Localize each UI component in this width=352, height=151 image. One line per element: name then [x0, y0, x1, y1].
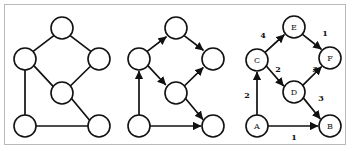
edge-mid-to-right — [185, 68, 203, 86]
node-bright[interactable] — [202, 115, 224, 137]
node-mid[interactable] — [51, 82, 73, 104]
panel-weighted-graph: E F C D A B 4 1 2 2 3 3 1 — [233, 5, 347, 144]
edge-top-to-right — [185, 36, 204, 50]
panel-directed-graph — [119, 5, 233, 144]
node-label-E: E — [291, 23, 297, 32]
panel-undirected-graph — [5, 5, 119, 144]
node-right[interactable] — [88, 48, 110, 70]
node-bleft[interactable] — [128, 115, 150, 137]
edge-mid-right — [71, 67, 90, 86]
edge-group — [139, 36, 203, 126]
node-label-A: A — [253, 122, 260, 131]
node-mid[interactable] — [165, 82, 187, 104]
node-top[interactable] — [51, 17, 73, 39]
node-left[interactable] — [14, 48, 36, 70]
edge-top-right — [71, 36, 91, 51]
edge-weight-D-F: 3 — [312, 64, 318, 74]
node-label-F: F — [327, 54, 333, 63]
edge-C-to-E — [265, 35, 284, 52]
edge-left-to-top — [148, 37, 167, 51]
directed-graph-svg — [119, 5, 233, 144]
edge-weight-C-D: 2 — [275, 64, 281, 74]
node-label-B: B — [327, 122, 333, 131]
edge-weight-A-C: 2 — [244, 90, 250, 100]
edge-left-mid — [34, 66, 52, 86]
node-bright[interactable] — [88, 115, 110, 137]
edge-weight-A-B: 1 — [291, 132, 297, 142]
weighted-graph-svg: E F C D A B 4 1 2 2 3 3 1 — [233, 5, 347, 144]
node-left[interactable] — [128, 48, 150, 70]
edge-E-to-F — [303, 34, 322, 49]
undirected-graph-svg — [5, 5, 119, 144]
edge-left-top — [34, 36, 54, 51]
node-label-D: D — [291, 88, 297, 97]
node-right[interactable] — [202, 48, 224, 70]
node-top[interactable] — [165, 17, 187, 39]
edge-group — [257, 34, 321, 126]
edge-mid-bright — [71, 98, 90, 120]
node-label-C: C — [254, 56, 260, 65]
node-group — [14, 17, 110, 137]
edge-left-to-mid — [148, 66, 165, 84]
edge-weight-D-B: 3 — [318, 93, 324, 103]
edge-weight-C-E: 4 — [260, 30, 266, 40]
edge-group — [25, 36, 91, 126]
node-bleft[interactable] — [14, 115, 36, 137]
figure-frame: E F C D A B 4 1 2 2 3 3 1 — [4, 4, 346, 145]
edge-weight-E-F: 1 — [322, 28, 328, 38]
edge-mid-to-bright — [185, 98, 202, 119]
node-group — [128, 17, 224, 137]
